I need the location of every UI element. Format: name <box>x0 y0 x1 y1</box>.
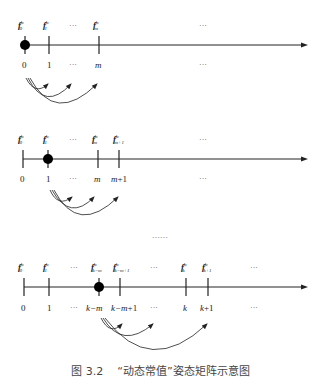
index-m: m <box>94 174 101 184</box>
f-label-1: fb1 <box>43 20 49 31</box>
caption-title: “动态常值”姿态矩阵示意图 <box>117 365 249 378</box>
ellipsis: ··· <box>250 263 258 272</box>
index-0: 0 <box>22 60 27 70</box>
f-label-m: fbm <box>93 20 99 31</box>
index-m: m <box>95 60 102 70</box>
f-label-k-minus-m-plus-1: fbk−m+1 <box>113 262 130 273</box>
f-label-m: fbm <box>92 134 98 145</box>
axis-arrow-icon <box>301 157 308 162</box>
current-index-dot <box>43 154 53 164</box>
arc-arrow <box>52 190 94 208</box>
rows-ellipsis: …… <box>152 231 168 240</box>
index-1: 1 <box>47 60 52 70</box>
ellipsis: ··· <box>69 174 77 183</box>
row-2: fb0 fb1 ··· fbm fbm+1 ··· 0 1 ··· m m+1 … <box>18 134 308 215</box>
f-label-1: fb1 <box>43 262 49 273</box>
ellipsis: ··· <box>199 60 207 69</box>
f-label-k-minus-m: fbk−m <box>91 262 102 273</box>
index-0: 0 <box>21 303 26 313</box>
ellipsis: ··· <box>69 135 77 144</box>
ellipsis: ··· <box>199 135 207 144</box>
axis-arrow-icon <box>301 43 308 48</box>
arc-arrow <box>103 318 153 336</box>
index-k-minus-m: k−m <box>86 303 103 313</box>
arc-arrow <box>28 78 71 97</box>
ellipsis: ··· <box>150 303 158 312</box>
arc-arrow <box>26 78 48 89</box>
index-1: 1 <box>46 174 51 184</box>
row-3: fb0 fb1 ··· fbk−m fbk−m+1 ··· fbk fbk+1 … <box>18 262 308 350</box>
row-1: fb0 fb1 ··· fbm ··· 0 1 ··· m ··· <box>18 20 308 103</box>
figure-caption: 图 3.2“动态常值”姿态矩阵示意图 <box>0 362 321 378</box>
current-index-dot <box>94 282 104 292</box>
arc-arrow <box>105 318 207 350</box>
index-1: 1 <box>47 303 52 313</box>
f-label-m-plus-1: fbm+1 <box>113 134 124 145</box>
axis-arrow-icon <box>301 285 308 290</box>
ellipsis: ··· <box>70 303 78 312</box>
index-k-minus-m-plus-1: k−m+1 <box>111 303 137 313</box>
diagram-canvas: fb0 fb1 ··· fbm ··· 0 1 ··· m ··· fb0 fb… <box>0 0 321 383</box>
ellipsis: ··· <box>69 60 77 69</box>
index-0: 0 <box>20 174 25 184</box>
index-k: k <box>183 303 188 313</box>
ellipsis: ··· <box>150 263 158 272</box>
f-label-1: fb1 <box>43 134 49 145</box>
index-m-plus-1: m+1 <box>111 174 127 184</box>
index-k-plus-1: k+1 <box>200 303 214 313</box>
ellipsis: ··· <box>199 21 207 30</box>
f-label-0: fb0 <box>18 262 24 273</box>
current-index-dot <box>20 40 30 50</box>
ellipsis: ··· <box>250 303 258 312</box>
f-label-k-plus-1: fbk+1 <box>202 262 212 273</box>
ellipsis: ··· <box>70 263 78 272</box>
caption-number: 图 3.2 <box>71 365 103 378</box>
f-label-k: fbk <box>181 262 187 273</box>
ellipsis: ··· <box>69 21 77 30</box>
ellipsis: ··· <box>199 174 207 183</box>
f-label-0: fb0 <box>18 20 24 31</box>
arc-arrow <box>54 190 118 215</box>
f-label-0: fb0 <box>18 134 24 145</box>
